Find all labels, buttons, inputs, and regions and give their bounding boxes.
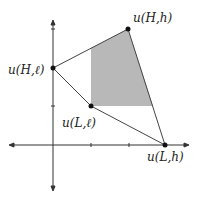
label-u-L-h: u(L,h) xyxy=(147,150,184,164)
y-axis-bottom-arrow-icon xyxy=(51,186,55,191)
label-u-H-h: u(H,h) xyxy=(133,11,172,25)
label-u-H-l: u(H,ℓ) xyxy=(8,63,45,77)
point-u-H-l xyxy=(51,66,56,71)
point-u-H-h xyxy=(126,27,131,32)
y-axis-top-arrow-icon xyxy=(51,20,55,25)
diagram: u(H,h) u(H,ℓ) u(L,ℓ) u(L,h) xyxy=(0,0,197,198)
point-u-L-h xyxy=(163,143,168,148)
x-axis-left-arrow-icon xyxy=(9,143,14,147)
label-u-L-l: u(L,ℓ) xyxy=(62,116,96,130)
x-axis-right-arrow-icon xyxy=(184,143,189,147)
shaded-region xyxy=(91,29,153,106)
point-u-L-l xyxy=(89,104,94,109)
